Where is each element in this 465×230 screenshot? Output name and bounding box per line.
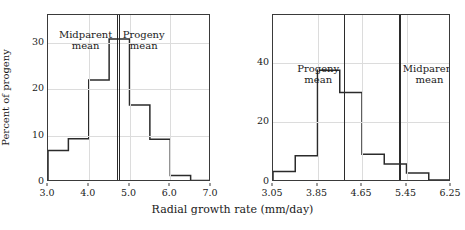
mean-line-midparent: [117, 15, 118, 181]
x-tick-mark: [316, 183, 317, 186]
mean-line-progeny: [344, 15, 345, 181]
x-tick-label: 5.45: [395, 188, 416, 198]
x-tick-mark: [405, 183, 406, 186]
x-tick-mark: [47, 183, 48, 186]
x-tick-label: 6.25: [439, 188, 460, 198]
mean-label-line2: mean: [297, 74, 339, 85]
plot-area-left: MidparentmeanProgenymean: [47, 14, 210, 181]
mean-line-midparent: [399, 15, 400, 181]
x-tick-label: 3.05: [261, 188, 282, 198]
x-tick-label: 6.0: [162, 188, 177, 198]
gridline-vertical: [170, 15, 171, 180]
x-tick-label: 3.85: [306, 188, 327, 198]
mean-label-line2: mean: [59, 40, 112, 51]
x-tick-mark: [272, 183, 273, 186]
x-tick-mark: [361, 183, 362, 186]
y-tick-label: 30: [32, 37, 44, 47]
x-tick-mark: [128, 183, 129, 186]
mean-line-progeny: [119, 15, 120, 181]
y-tick-label: 0: [263, 176, 269, 186]
mean-label-line1: Progeny: [123, 29, 165, 40]
x-tick-mark: [210, 183, 211, 186]
x-tick-label: 7.0: [202, 188, 217, 198]
mean-label-progeny: Progenymean: [123, 29, 165, 51]
y-tick-label: 40: [257, 57, 269, 67]
mean-label-line1: Midparent: [403, 63, 450, 74]
mean-label-line2: mean: [403, 74, 450, 85]
x-tick-label: 4.65: [350, 188, 371, 198]
x-tick-label: 3.0: [39, 188, 54, 198]
chart-panel-right: 02040 ProgenymeanMidparentmean 3.053.854…: [233, 0, 465, 230]
gridline-horizontal: [273, 122, 449, 123]
x-tick-mark: [169, 183, 170, 186]
mean-label-line1: Progeny: [297, 63, 339, 74]
x-tick-mark: [87, 183, 88, 186]
mean-label-line1: Midparent: [59, 29, 112, 40]
figure-root: Percent of progeny 0102030 Midparentmean…: [0, 0, 465, 230]
y-tick-label: 20: [32, 83, 44, 93]
y-tick-label: 0: [38, 176, 44, 186]
gridline-vertical: [362, 15, 363, 180]
mean-label-progeny: Progenymean: [297, 63, 339, 85]
x-axis-ticks-right: 3.053.854.655.456.25: [272, 183, 450, 197]
y-axis-ticks-left: 0102030: [22, 14, 44, 181]
x-axis-title: Radial growth rate (mm/day): [0, 203, 465, 216]
mean-label-midparent: Midparentmean: [59, 29, 112, 51]
y-tick-label: 20: [257, 117, 269, 127]
x-tick-mark: [450, 183, 451, 186]
gridline-vertical: [407, 15, 408, 180]
mean-label-midparent: Midparentmean: [403, 63, 450, 85]
mean-label-line2: mean: [123, 40, 165, 51]
x-tick-label: 5.0: [121, 188, 136, 198]
x-tick-label: 4.0: [80, 188, 95, 198]
gridline-horizontal: [48, 136, 209, 137]
y-tick-label: 10: [32, 130, 44, 140]
gridline-horizontal: [48, 89, 209, 90]
x-axis-ticks-left: 3.04.05.06.07.0: [47, 183, 210, 197]
y-axis-ticks-right: 02040: [247, 14, 269, 181]
y-axis-title-left: Percent of progeny: [0, 14, 12, 181]
plot-area-right: ProgenymeanMidparentmean: [272, 14, 450, 181]
gridline-vertical: [318, 15, 319, 180]
chart-panel-left: Percent of progeny 0102030 Midparentmean…: [0, 0, 233, 230]
